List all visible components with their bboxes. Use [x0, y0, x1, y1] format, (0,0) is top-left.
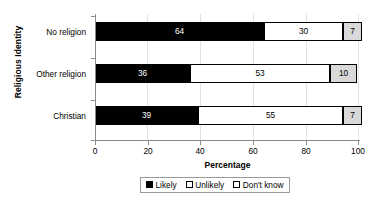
x-axis-tick-40 [200, 141, 201, 145]
x-axis-tick-label-20: 20 [128, 146, 168, 156]
x-axis-tick-80 [306, 141, 307, 145]
x-axis-tick-0 [95, 141, 96, 145]
x-axis-tick-label-60: 60 [233, 146, 273, 156]
legend-item-unlikely[interactable]: Unlikely [186, 181, 225, 189]
plot-area: 64 30 7 36 53 10 39 55 7 [95, 14, 359, 140]
legend-swatch-likely-icon [146, 181, 153, 188]
y-axis-tick [91, 58, 95, 59]
bar-segment-unlikely[interactable]: 30 [264, 22, 343, 41]
bar-segment-likely[interactable]: 64 [95, 22, 264, 41]
bar-segment-dont-know[interactable]: 10 [330, 64, 357, 83]
bar-segment-unlikely[interactable]: 53 [190, 64, 330, 83]
x-axis-tick-label-80: 80 [286, 146, 326, 156]
bar-segment-likely[interactable]: 39 [95, 106, 198, 125]
legend-label-unlikely: Unlikely [195, 181, 224, 189]
bar-segment-unlikely[interactable]: 55 [198, 106, 343, 125]
legend-item-dont-know[interactable]: Don't know [233, 181, 283, 189]
x-axis-title: Percentage [95, 160, 360, 170]
bar-segment-dont-know[interactable]: 7 [343, 106, 362, 125]
x-axis-tick-label-0: 0 [75, 146, 115, 156]
y-axis-tick [91, 100, 95, 101]
category-label-no-religion: No religion [46, 27, 86, 37]
x-axis-tick-60 [253, 141, 254, 145]
bar-segment-likely[interactable]: 36 [95, 64, 190, 83]
stacked-bar-chart: Religious Identity 64 30 7 36 53 10 39 5… [0, 0, 377, 206]
x-axis-tick-100 [358, 141, 359, 145]
x-axis-tick-20 [148, 141, 149, 145]
legend-item-likely[interactable]: Likely [146, 181, 177, 189]
y-axis-title: Religious Identity [13, 0, 23, 132]
legend-label-likely: Likely [156, 181, 177, 189]
category-label-christian: Christian [53, 111, 86, 121]
x-axis-tick-label-100: 100 [338, 146, 377, 156]
y-axis-line [95, 14, 96, 141]
category-label-other-religion: Other religion [36, 69, 86, 79]
y-axis-tick [91, 16, 95, 17]
bar-segment-dont-know[interactable]: 7 [343, 22, 362, 41]
legend-label-dont-know: Don't know [243, 181, 284, 189]
x-axis-line [95, 140, 360, 141]
legend-swatch-dont-know-icon [233, 181, 240, 188]
chart-legend: Likely Unlikely Don't know [140, 177, 290, 193]
x-axis-tick-label-40: 40 [180, 146, 220, 156]
legend-swatch-unlikely-icon [186, 181, 193, 188]
